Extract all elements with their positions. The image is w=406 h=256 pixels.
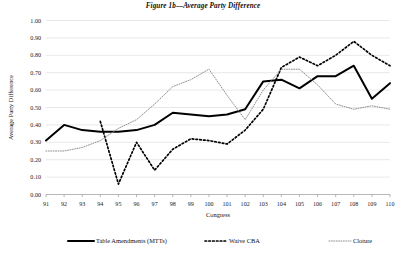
y-tick-label: 0.90 xyxy=(30,35,41,41)
x-tick-label: 107 xyxy=(331,201,340,207)
legend-label: Table Amendments (MTTs) xyxy=(96,237,167,245)
y-tick-label: 0.60 xyxy=(30,87,41,93)
chart-legend: Table Amendments (MTTs)Waive CBACloture xyxy=(68,237,372,245)
x-tick-label: 104 xyxy=(277,201,286,207)
x-tick-label: 91 xyxy=(43,201,49,207)
x-axis xyxy=(46,195,390,198)
x-tick-label: 98 xyxy=(170,201,176,207)
x-tick-label: 103 xyxy=(259,201,268,207)
series-line-dashed xyxy=(100,41,390,184)
x-tick-label: 97 xyxy=(152,201,158,207)
x-tick-label: 105 xyxy=(295,201,304,207)
x-tick-label: 99 xyxy=(188,201,194,207)
x-axis-title: Congress xyxy=(206,211,230,218)
y-axis-tick-labels: 0.000.100.200.300.400.500.600.700.800.90… xyxy=(30,18,41,198)
y-tick-label: 0.20 xyxy=(30,157,41,163)
x-tick-label: 92 xyxy=(61,201,67,207)
y-tick-label: 0.40 xyxy=(30,122,41,128)
series-line-solid xyxy=(46,66,390,141)
x-tick-label: 93 xyxy=(79,201,85,207)
x-tick-label: 106 xyxy=(313,201,322,207)
x-tick-label: 102 xyxy=(241,201,250,207)
line-chart: 0.000.100.200.300.400.500.600.700.800.90… xyxy=(0,0,406,256)
x-tick-label: 96 xyxy=(133,201,139,207)
x-axis-tick-labels: 9192939495969798991001011021031041051061… xyxy=(43,201,395,207)
figure-container: Figure 1b—Average Party Difference 0.000… xyxy=(0,0,406,256)
y-tick-label: 0.50 xyxy=(30,105,41,111)
y-tick-label: 0.30 xyxy=(30,139,41,145)
x-tick-label: 109 xyxy=(367,201,376,207)
x-tick-label: 100 xyxy=(204,201,213,207)
y-axis-title: Average Party Difference xyxy=(7,75,14,140)
series-line-dotted xyxy=(46,69,390,151)
x-tick-label: 101 xyxy=(222,201,231,207)
y-tick-label: 0.10 xyxy=(30,174,41,180)
legend-label: Waive CBA xyxy=(229,237,260,244)
gridlines xyxy=(46,21,390,195)
y-tick-label: 0.80 xyxy=(30,52,41,58)
y-tick-label: 0.00 xyxy=(30,192,41,198)
x-tick-label: 110 xyxy=(386,201,395,207)
x-tick-label: 108 xyxy=(349,201,358,207)
y-tick-label: 1.00 xyxy=(30,18,41,24)
data-series xyxy=(46,41,390,184)
legend-label: Cloture xyxy=(353,237,372,244)
x-tick-label: 94 xyxy=(97,201,103,207)
x-tick-label: 95 xyxy=(115,201,121,207)
y-tick-label: 0.70 xyxy=(30,70,41,76)
